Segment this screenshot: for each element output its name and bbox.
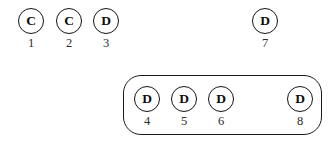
node-7[interactable]: D7 bbox=[245, 8, 285, 50]
node-label-3: 3 bbox=[86, 37, 126, 50]
node-label-2: 2 bbox=[49, 37, 89, 50]
node-label-6: 6 bbox=[201, 115, 241, 128]
node-label-1: 1 bbox=[11, 37, 51, 50]
node-1[interactable]: C1 bbox=[11, 8, 51, 50]
node-circle-4: D bbox=[134, 86, 160, 112]
node-6[interactable]: D6 bbox=[201, 86, 241, 128]
node-4[interactable]: D4 bbox=[127, 86, 167, 128]
node-circle-8: D bbox=[287, 86, 313, 112]
node-circle-3: D bbox=[93, 8, 119, 34]
node-5[interactable]: D5 bbox=[164, 86, 204, 128]
node-3[interactable]: D3 bbox=[86, 8, 126, 50]
node-8[interactable]: D8 bbox=[280, 86, 320, 128]
node-circle-6: D bbox=[208, 86, 234, 112]
node-label-7: 7 bbox=[245, 37, 285, 50]
diagram-canvas: C1C2D3D7D4D5D6D8 bbox=[0, 0, 334, 142]
node-label-4: 4 bbox=[127, 115, 167, 128]
node-2[interactable]: C2 bbox=[49, 8, 89, 50]
node-circle-2: C bbox=[56, 8, 82, 34]
node-circle-7: D bbox=[252, 8, 278, 34]
node-circle-1: C bbox=[18, 8, 44, 34]
node-label-8: 8 bbox=[280, 115, 320, 128]
node-circle-5: D bbox=[171, 86, 197, 112]
node-label-5: 5 bbox=[164, 115, 204, 128]
